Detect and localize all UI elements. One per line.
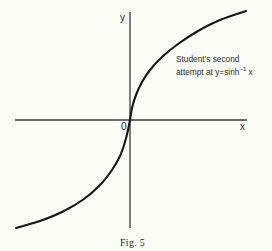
annotation-line-2: attempt at y=sinh−1 x xyxy=(176,66,254,77)
annotation-line-2-suffix: x xyxy=(246,67,253,77)
origin-label: 0 xyxy=(121,121,127,132)
x-axis-label: x xyxy=(240,121,245,132)
figure-caption: Fig. 5 xyxy=(120,237,145,248)
annotation-line-2-prefix: attempt at y=sinh xyxy=(176,67,240,77)
annotation-line-1: Student's second xyxy=(176,54,240,64)
figure-canvas: y x 0 Student's second attempt at y=sinh… xyxy=(0,0,272,251)
y-axis-label: y xyxy=(120,12,125,23)
